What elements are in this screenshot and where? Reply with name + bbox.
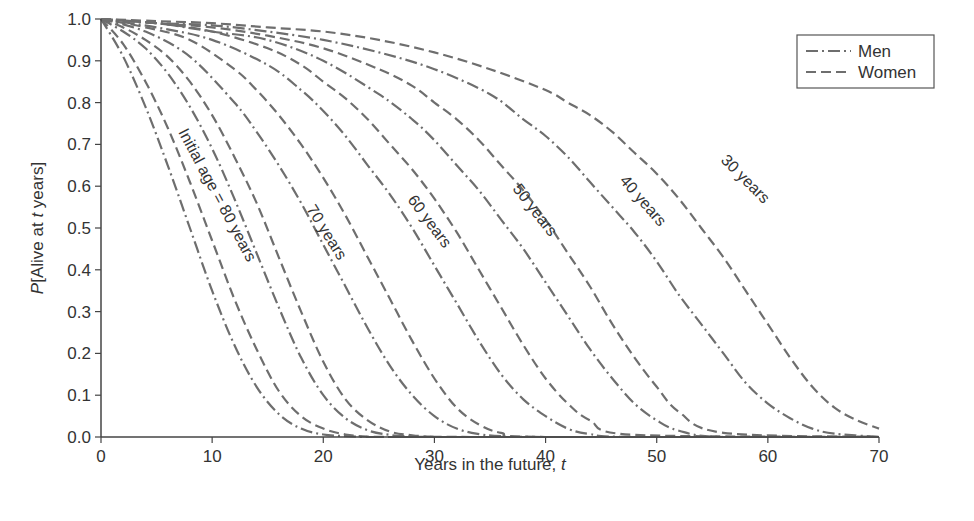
curve-men-age-60 xyxy=(101,19,879,437)
y-tick-label: 0.4 xyxy=(67,261,91,280)
curve-men-age-40 xyxy=(101,19,879,437)
curve-label: 60 years xyxy=(405,192,456,251)
y-tick-label: 0.7 xyxy=(67,135,91,154)
curve-women-age-50 xyxy=(101,19,879,437)
curve-women-age-40 xyxy=(101,19,879,437)
curve-labels: Initial age = 80 years70 years60 years50… xyxy=(175,125,773,264)
legend-women-label: Women xyxy=(858,63,916,82)
curve-men-age-80 xyxy=(101,19,879,437)
y-tick-label: 0.2 xyxy=(67,344,91,363)
survival-chart: 0.00.10.20.30.40.50.60.70.80.91.0 010203… xyxy=(0,0,974,521)
x-tick-label: 0 xyxy=(96,447,105,466)
y-tick-label: 0.5 xyxy=(67,219,91,238)
x-tick-label: 60 xyxy=(758,447,777,466)
x-tick-label: 20 xyxy=(314,447,333,466)
y-tick-label: 0.9 xyxy=(67,52,91,71)
y-tick-label: 0.1 xyxy=(67,386,91,405)
legend: Men Women xyxy=(797,35,934,88)
curve-women-age-70 xyxy=(101,19,879,437)
y-ticks: 0.00.10.20.30.40.50.60.70.80.91.0 xyxy=(67,10,101,447)
curve-label: 50 years xyxy=(510,180,561,239)
x-tick-label: 10 xyxy=(203,447,222,466)
curve-men-age-30 xyxy=(101,19,879,437)
y-tick-label: 0.6 xyxy=(67,177,91,196)
curve-men-age-70 xyxy=(101,19,879,437)
legend-men-label: Men xyxy=(858,42,891,61)
x-axis-title: Years in the future, t xyxy=(414,455,567,474)
curve-label: 30 years xyxy=(718,151,773,206)
y-tick-label: 1.0 xyxy=(67,10,91,29)
y-tick-label: 0.0 xyxy=(67,428,91,447)
y-axis-title: P[Alive at t years] xyxy=(28,162,47,294)
y-tick-label: 0.8 xyxy=(67,94,91,113)
curve-men-age-50 xyxy=(101,19,879,437)
curve-women-age-80 xyxy=(101,19,879,437)
y-tick-label: 0.3 xyxy=(67,303,91,322)
curve-women-age-60 xyxy=(101,19,879,437)
curve-group xyxy=(101,19,879,437)
axes xyxy=(101,19,879,437)
x-tick-label: 50 xyxy=(647,447,666,466)
curve-label: Initial age = 80 years xyxy=(175,125,260,264)
x-tick-label: 70 xyxy=(870,447,889,466)
curve-women-age-30 xyxy=(101,19,879,429)
